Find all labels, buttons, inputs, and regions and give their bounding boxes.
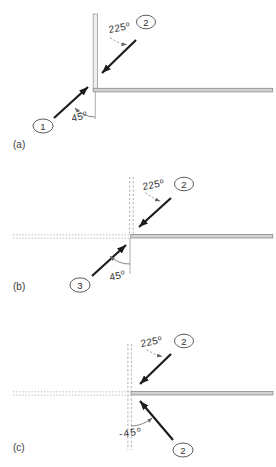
panel-c-diagram: 225o -45o 2 2 (c)	[0, 310, 276, 467]
badge-number-lower: 1	[40, 121, 45, 132]
badge-number-upper: 2	[143, 17, 148, 28]
badge-number-lower: 3	[77, 280, 82, 291]
panel-a-diagram: 225o 45o 2 1 (a)	[0, 0, 276, 155]
angle-leader-225	[147, 350, 163, 357]
angle-label-45: 45o	[70, 109, 88, 124]
ray-arrow-upper	[139, 198, 171, 227]
panel-letter: (c)	[13, 442, 25, 453]
panel-b: 225o 45o 2 3 (b)	[0, 155, 276, 310]
angle-label-225: 225o	[140, 334, 163, 349]
angle-label-225: 225o	[142, 177, 165, 192]
angle-label-45: 45o	[108, 268, 126, 283]
angle-leader-225	[110, 38, 127, 45]
panel-letter: (b)	[13, 281, 25, 292]
panel-b-diagram: 225o 45o 2 3 (b)	[0, 155, 276, 310]
horizontal-wall	[131, 391, 273, 395]
figure-page: 225o 45o 2 1 (a)	[0, 0, 276, 467]
angle-leader-225	[146, 193, 161, 202]
badge-number-upper: 2	[181, 179, 186, 190]
angle-arc-minus45	[131, 418, 152, 426]
panel-c: 225o -45o 2 2 (c)	[0, 310, 276, 467]
panel-a: 225o 45o 2 1 (a)	[0, 0, 276, 155]
badge-number-upper: 2	[181, 336, 186, 347]
ray-arrow-upper	[102, 40, 136, 73]
angle-label-225: 225o	[108, 20, 131, 35]
horizontal-wall	[93, 88, 273, 92]
ray-arrow-upper	[140, 354, 171, 384]
panel-letter: (a)	[13, 139, 25, 150]
vertical-wall	[93, 14, 97, 89]
horizontal-wall	[131, 234, 273, 238]
angle-label-minus45: -45o	[118, 425, 143, 440]
badge-number-lower: 2	[180, 445, 185, 456]
ray-arrow-lower	[140, 401, 173, 440]
